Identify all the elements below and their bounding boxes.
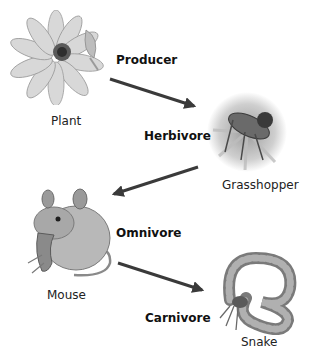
food-chain-arrows — [0, 0, 316, 358]
arrow-plant-to-grasshopper — [110, 79, 194, 106]
arrow-grasshopper-to-mouse — [114, 167, 198, 194]
arrow-mouse-to-snake — [118, 263, 202, 290]
